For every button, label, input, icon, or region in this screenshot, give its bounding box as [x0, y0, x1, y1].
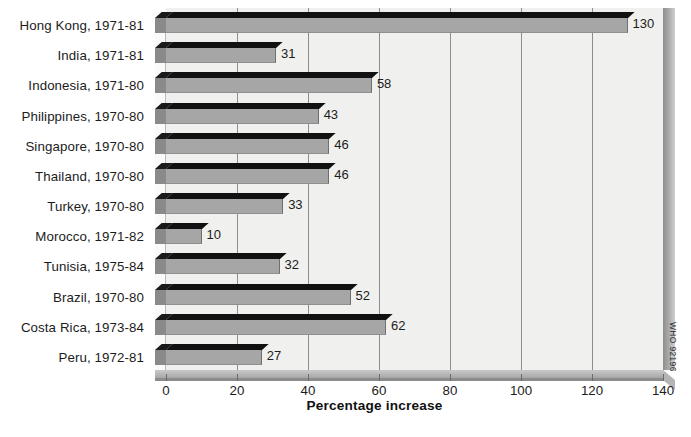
category-axis-labels: Hong Kong, 1971-81India, 1971-81Indonesi… [0, 10, 150, 376]
x-tick-label: 140 [652, 383, 674, 398]
bar-series: 1303158434646331032526227 [155, 8, 677, 380]
bar-front-face [166, 199, 283, 214]
x-tick-label: 60 [372, 383, 387, 398]
category-label: Peru, 1972-81 [0, 351, 144, 365]
x-axis-title: Percentage increase [0, 398, 691, 413]
x-tick-mark [592, 374, 593, 381]
bar-value-label: 32 [285, 257, 299, 272]
bar-side-face [155, 259, 166, 274]
bar-front-face [166, 320, 386, 335]
x-tick-mark [166, 374, 167, 381]
x-tick-mark [521, 374, 522, 381]
bar-value-label: 130 [633, 16, 655, 31]
category-label: Indonesia, 1971-80 [0, 79, 144, 93]
category-label: Morocco, 1971-82 [0, 230, 144, 244]
x-tick-mark [308, 374, 309, 381]
bar-front-face [166, 48, 276, 63]
bar-front-face [166, 139, 329, 154]
category-label: Tunisia, 1975-84 [0, 260, 144, 274]
x-tick-label: 100 [510, 383, 532, 398]
bar-value-label: 43 [324, 107, 338, 122]
bar-front-face [166, 78, 372, 93]
x-tick-mark [450, 374, 451, 381]
bar-front-face [166, 169, 329, 184]
bar-side-face [155, 320, 166, 335]
x-tick-mark [663, 374, 664, 381]
plot-area: 1303158434646331032526227 [155, 8, 677, 380]
category-label: Turkey, 1970-80 [0, 200, 144, 214]
bar-side-face [155, 229, 166, 244]
bar-side-face [155, 139, 166, 154]
category-label: Hong Kong, 1971-81 [0, 19, 144, 33]
bar-front-face [166, 259, 280, 274]
category-label: Thailand, 1970-80 [0, 170, 144, 184]
bar-value-label: 10 [207, 227, 221, 242]
who-credit-label: WHO 92196 [668, 322, 677, 372]
bar-value-label: 31 [281, 46, 295, 61]
bar-value-label: 46 [334, 137, 348, 152]
x-tick-mark [237, 374, 238, 381]
bar-side-face [155, 290, 166, 305]
x-tick-label: 80 [443, 383, 458, 398]
bar-value-label: 46 [334, 167, 348, 182]
category-label: India, 1971-81 [0, 49, 144, 63]
bar-side-face [155, 169, 166, 184]
x-tick-label: 20 [230, 383, 245, 398]
bar-value-label: 27 [267, 348, 281, 363]
bar-side-face [155, 18, 166, 33]
bar-value-label: 33 [288, 197, 302, 212]
bar-value-label: 58 [377, 76, 391, 91]
bar-side-face [155, 199, 166, 214]
x-tick-mark [379, 374, 380, 381]
bar-front-face [166, 290, 351, 305]
bar-front-face [166, 350, 262, 365]
category-label: Costa Rica, 1973-84 [0, 321, 144, 335]
x-tick-label: 0 [162, 383, 169, 398]
bar-value-label: 52 [356, 288, 370, 303]
bar-chart: Hong Kong, 1971-81India, 1971-81Indonesi… [0, 0, 691, 437]
bar-value-label: 62 [391, 318, 405, 333]
x-axis-title-text: Percentage increase [306, 398, 442, 413]
bar-side-face [155, 109, 166, 124]
bar-side-face [155, 350, 166, 365]
x-tick-label: 120 [581, 383, 603, 398]
bar-side-face [155, 48, 166, 63]
bar-side-face [155, 78, 166, 93]
bar-front-face [166, 18, 628, 33]
bar-front-face [166, 229, 202, 244]
bar-front-face [166, 109, 319, 124]
x-tick-label: 40 [301, 383, 316, 398]
category-label: Brazil, 1970-80 [0, 291, 144, 305]
category-label: Singapore, 1970-80 [0, 140, 144, 154]
category-label: Philippines, 1970-80 [0, 110, 144, 124]
